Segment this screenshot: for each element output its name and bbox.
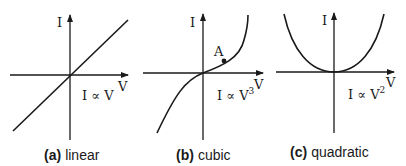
panel-linear: I V I ∝ V (a)linear: [10, 15, 128, 163]
iv-characteristics-figure: I V I ∝ V (a)linear A I V I ∝ V3 (b)cubi…: [0, 0, 406, 166]
y-axis-label: I: [190, 15, 195, 30]
y-axis-label: I: [57, 15, 62, 30]
point-a-label: A: [213, 44, 224, 59]
proportionality-law: I ∝ V2: [348, 85, 385, 102]
proportionality-law: I ∝ V: [82, 88, 114, 103]
proportionality-law: I ∝ V3: [217, 86, 255, 103]
panel-cubic: A I V I ∝ V3 (b)cubic: [143, 14, 264, 163]
x-axis-label: V: [253, 77, 264, 92]
panel-caption: (c)quadratic: [290, 144, 369, 160]
panel-caption: (b)cubic: [176, 147, 231, 163]
panel-caption: (a)linear: [44, 147, 100, 163]
x-axis-label: V: [117, 79, 128, 94]
x-axis-label: V: [385, 75, 396, 90]
panel-quadratic: I V I ∝ V2 (c)quadratic: [276, 13, 396, 160]
y-axis-label: I: [322, 13, 327, 28]
point-a-marker: [222, 59, 227, 64]
